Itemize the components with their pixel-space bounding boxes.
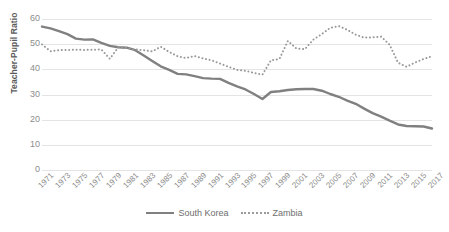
plot-svg <box>42 19 432 170</box>
y-tick-label: 0 <box>14 165 40 174</box>
legend-label: Zambia <box>273 208 303 218</box>
legend-item-south-korea[interactable]: South Korea <box>146 208 228 218</box>
solid-line-swatch <box>146 212 174 214</box>
y-tick-label: 30 <box>14 90 40 99</box>
y-tick-label: 60 <box>14 14 40 23</box>
y-tick-label: 40 <box>14 64 40 73</box>
y-tick-label: 10 <box>14 140 40 149</box>
x-axis-tick-labels: 1971197319751977197919811983198519871989… <box>42 171 432 211</box>
y-tick-label: 20 <box>14 115 40 124</box>
y-tick-label: 50 <box>14 39 40 48</box>
chart-legend: South KoreaZambia <box>0 208 449 218</box>
legend-item-zambia[interactable]: Zambia <box>241 208 303 218</box>
legend-label: South Korea <box>178 208 228 218</box>
series-line-south-korea <box>42 27 432 129</box>
line-chart: Teacher-Pupil Ratio 0102030405060 197119… <box>0 0 449 232</box>
dotted-line-swatch <box>241 212 269 214</box>
series-line-zambia <box>42 26 432 75</box>
plot-area <box>42 19 432 170</box>
